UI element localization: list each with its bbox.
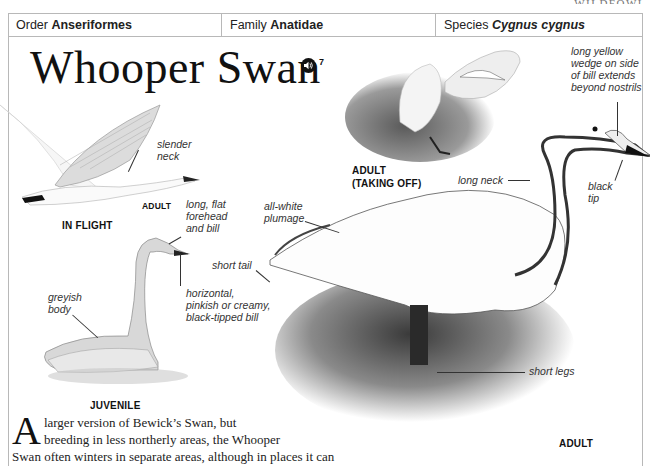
species-value: Cygnus cygnus bbox=[492, 18, 585, 32]
species-label: Species bbox=[444, 18, 488, 32]
order-label: Order bbox=[16, 18, 48, 32]
order-value: Anseriformes bbox=[51, 18, 132, 32]
drop-cap: A bbox=[12, 416, 41, 446]
juvenile-caption: JUVENILE bbox=[90, 399, 141, 412]
long-neck-leader bbox=[508, 180, 530, 181]
long-neck-label: long neck bbox=[458, 174, 503, 186]
yellow-wedge-label: long yellowwedge on sideof bill extendsb… bbox=[571, 45, 642, 93]
taxonomy-bar: Order Anseriformes Family Anatidae Speci… bbox=[8, 13, 643, 37]
adult-flight-caption: ADULT bbox=[142, 200, 171, 213]
body-text: A larger version of Bewick’s Swan, but b… bbox=[12, 414, 412, 465]
taxonomy-order: Order Anseriformes bbox=[8, 13, 222, 36]
taxonomy-family: Family Anatidae bbox=[222, 13, 436, 36]
adult-caption: ADULT bbox=[559, 437, 593, 450]
body-line-1: larger version of Bewick’s Swan, but bbox=[12, 414, 412, 431]
bill-leader bbox=[180, 254, 181, 286]
family-value: Anatidae bbox=[270, 18, 323, 32]
greyish-body-label: greyishbody bbox=[48, 291, 82, 315]
taxonomy-species: Species Cygnus cygnus bbox=[436, 13, 643, 36]
forehead-label: long, flatforeheadand bill bbox=[186, 198, 227, 234]
running-head: WILDFOWL bbox=[574, 0, 646, 4]
body-line-3: Swan often winters in separate areas, al… bbox=[12, 448, 432, 465]
audio-track-number: 7 bbox=[319, 57, 324, 67]
adult-swan-illustration bbox=[255, 115, 650, 440]
in-flight-caption: IN FLIGHT bbox=[62, 219, 113, 232]
black-tip-label: blacktip bbox=[588, 180, 613, 204]
family-label: Family bbox=[230, 18, 267, 32]
short-tail-label: short tail bbox=[212, 259, 252, 271]
short-legs-leader bbox=[437, 372, 525, 373]
body-line-2: breeding in less northerly areas, the Wh… bbox=[12, 431, 412, 448]
page-title: Whooper Swan bbox=[30, 38, 321, 98]
all-white-plumage-label: all-whiteplumage bbox=[264, 200, 304, 224]
slender-neck-label: slenderneck bbox=[157, 138, 191, 162]
speaker-icon[interactable] bbox=[301, 58, 316, 73]
short-legs-label: short legs bbox=[529, 365, 575, 377]
yellow-wedge-leader bbox=[617, 102, 618, 136]
